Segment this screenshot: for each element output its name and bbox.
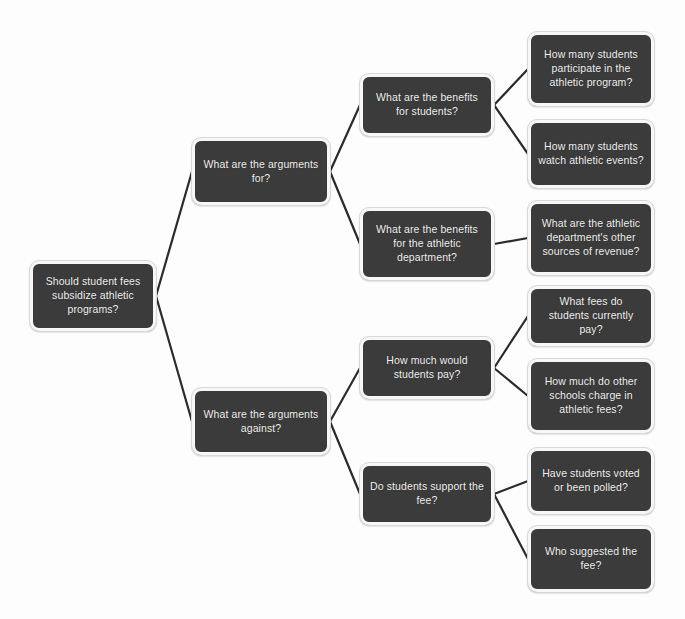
edge-support-fee-to-who-suggested <box>494 494 528 559</box>
node-args-against[interactable]: What are the arguments against? <box>192 388 330 455</box>
edge-support-fee-to-voted-polled <box>494 481 528 494</box>
edge-how-much-pay-to-other-schools <box>494 368 528 396</box>
node-watch-events[interactable]: How many students watch athletic events? <box>528 120 654 188</box>
node-label: What are the arguments against? <box>202 408 320 436</box>
node-current-fees[interactable]: What fees do students currently pay? <box>528 286 654 346</box>
edge-how-much-pay-to-current-fees <box>494 316 528 368</box>
node-who-suggested[interactable]: Who suggested the fee? <box>528 526 654 592</box>
node-support-fee[interactable]: Do students support the fee? <box>360 463 494 525</box>
edge-args-for-to-benefits-students <box>330 105 360 172</box>
node-args-for[interactable]: What are the arguments for? <box>192 138 330 205</box>
node-root[interactable]: Should student fees subsidize athletic p… <box>30 261 156 331</box>
edge-benefits-department-to-other-revenue <box>494 238 528 244</box>
node-label: How much do other schools charge in athl… <box>538 375 644 417</box>
node-benefits-department[interactable]: What are the benefits for the athletic d… <box>360 208 494 280</box>
edge-args-against-to-how-much-pay <box>330 368 360 422</box>
edge-benefits-students-to-watch-events <box>494 105 528 154</box>
edge-args-against-to-support-fee <box>330 422 360 495</box>
node-label: Do students support the fee? <box>370 480 484 508</box>
node-label: What are the arguments for? <box>202 158 320 186</box>
node-label: Have students voted or been polled? <box>538 467 644 495</box>
diagram-canvas: Should student fees subsidize athletic p… <box>0 0 685 619</box>
node-label: How many students participate in the ath… <box>538 48 644 90</box>
node-label: What are the athletic department's other… <box>538 217 644 259</box>
node-voted-polled[interactable]: Have students voted or been polled? <box>528 448 654 514</box>
node-other-revenue[interactable]: What are the athletic department's other… <box>528 201 654 275</box>
node-other-schools[interactable]: How much do other schools charge in athl… <box>528 359 654 433</box>
node-label: What are the benefits for the athletic d… <box>370 223 484 265</box>
node-benefits-students[interactable]: What are the benefits for students? <box>360 74 494 136</box>
edge-benefits-students-to-participate <box>494 69 528 105</box>
node-label: What are the benefits for students? <box>370 91 484 119</box>
node-participate[interactable]: How many students participate in the ath… <box>528 32 654 106</box>
node-label: How many students watch athletic events? <box>538 140 644 168</box>
edge-root-to-args-against <box>156 296 192 422</box>
node-how-much-pay[interactable]: How much would students pay? <box>360 337 494 399</box>
node-label: What fees do students currently pay? <box>538 295 644 337</box>
edge-args-for-to-benefits-department <box>330 172 360 245</box>
node-label: Should student fees subsidize athletic p… <box>40 275 146 317</box>
node-label: Who suggested the fee? <box>538 545 644 573</box>
edge-root-to-args-for <box>156 172 192 297</box>
node-label: How much would students pay? <box>370 354 484 382</box>
